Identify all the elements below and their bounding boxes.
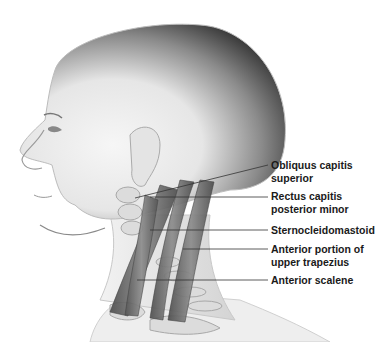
label-line: superior [271,172,353,185]
label-sternocleidomastoid: Sternocleidomastoid [271,224,375,237]
label-line: posterior minor [271,203,349,216]
label-line: Sternocleidomastoid [271,224,375,237]
jawline [40,225,105,235]
label-line: Anterior scalene [271,274,353,287]
label-rectus-capitis-posterior-minor: Rectus capitis posterior minor [271,190,349,215]
label-obliquus-capitis-superior: Obliquus capitis superior [271,159,353,184]
head [20,24,285,219]
label-anterior-upper-trapezius: Anterior portion of upper trapezius [271,243,364,268]
label-line: Rectus capitis [271,190,349,203]
label-line: upper trapezius [271,256,364,269]
label-line: Anterior portion of [271,243,364,256]
mouth [34,195,52,197]
label-line: Obliquus capitis [271,159,353,172]
label-anterior-scalene: Anterior scalene [271,274,353,287]
